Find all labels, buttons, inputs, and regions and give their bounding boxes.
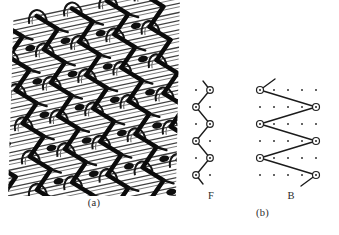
lapping-diagram-svg <box>186 78 339 196</box>
caption-b: (b) <box>186 207 339 218</box>
fabric-photo-svg <box>8 0 180 196</box>
front-bar-label: F <box>204 190 218 201</box>
figure-root: (a) <box>0 0 339 235</box>
warp-knitted-fabric-photograph <box>8 0 180 196</box>
back-bar-label: B <box>284 190 298 201</box>
lapping-diagram <box>186 78 339 196</box>
caption-a: (a) <box>8 197 180 208</box>
